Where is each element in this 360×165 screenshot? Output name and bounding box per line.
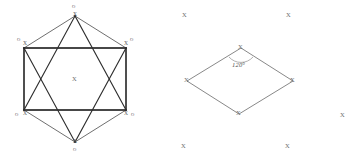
corner-label-x-top-left: X xyxy=(23,41,27,47)
right-panel-geometry xyxy=(187,48,293,114)
star-triangle-up xyxy=(24,16,126,110)
rhombus-vertex-label-bottom: X xyxy=(236,110,241,117)
corner-label-x-bottom-right: X xyxy=(124,111,128,117)
corner-label-x-bottom-left: X xyxy=(23,111,27,117)
vertex-dot xyxy=(125,47,127,49)
corner-label-x-bottom: X xyxy=(73,139,77,145)
vertex-label-o-top: O xyxy=(72,5,75,10)
lattice-mark-bottom-left: X xyxy=(181,143,186,150)
corner-label-x-top-right: X xyxy=(124,41,128,47)
vertex-label-o-bottom-right: O xyxy=(131,113,134,118)
figure-root: O O O O O O X X X X X X X 120° X X X X X… xyxy=(0,0,360,165)
corner-label-x-top: X xyxy=(73,12,77,18)
vertex-label-o-top-right: O xyxy=(130,38,133,43)
rhombus-vertex-label-right: X xyxy=(290,77,295,84)
vertex-label-o-bottom-left: O xyxy=(15,113,18,118)
vertex-label-o-top-left: O xyxy=(17,38,20,43)
vertex-label-o-bottom: O xyxy=(73,148,76,153)
angle-label-120: 120° xyxy=(232,61,245,68)
left-panel-geometry xyxy=(0,0,360,165)
lattice-mark-bottom-right: X xyxy=(285,143,290,150)
center-label-x: X xyxy=(72,76,77,83)
lattice-mark-far-right: X xyxy=(340,112,345,119)
rhombus-shape xyxy=(187,48,293,114)
lattice-mark-top-left: X xyxy=(182,12,187,19)
vertex-dot xyxy=(23,47,25,49)
triangle-up-shape xyxy=(24,16,126,110)
rhombus-vertex-label-left: X xyxy=(184,77,189,84)
rhombus-vertex-label-top: X xyxy=(238,44,243,51)
star-triangle-down xyxy=(24,48,126,142)
lattice-mark-top-right: X xyxy=(286,12,291,19)
triangle-down-shape xyxy=(24,48,126,142)
